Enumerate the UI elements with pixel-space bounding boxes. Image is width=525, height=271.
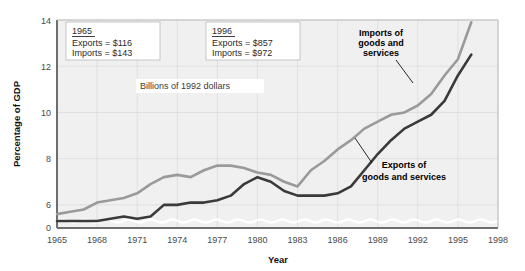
chart-svg: 068101214 196519681971197419771980198319… [0,0,525,271]
y-axis-break-squiggle [57,220,497,223]
chart-figure: 068101214 196519681971197419771980198319… [0,0,525,271]
x-axis-tick-label: 1986 [328,235,348,245]
series-label-imports-line2: goods and [358,38,404,48]
series-label-exports-line2: goods and services [362,172,446,182]
y-axis-tick-label: 14 [41,16,51,26]
x-axis-tick-label: 1998 [488,235,508,245]
x-axis-tick-label: 1971 [127,235,147,245]
series-label-exports-line1: Exports of [382,160,428,170]
x-axis-title: Year [268,254,288,265]
y-axis-tick-label: 6 [46,200,51,210]
x-axis-tick-label: 1995 [448,235,468,245]
x-axis-tick-label: 1977 [207,235,227,245]
units-note: Billions of 1992 dollars [136,79,264,93]
annotation-1996-imports: Imports = $972 [212,48,272,58]
y-axis-tick-label: 10 [41,108,51,118]
y-axis-tick-label: 8 [46,154,51,164]
x-axis-tick-label: 1989 [368,235,388,245]
x-axis-tick-label: 1980 [247,235,267,245]
x-axis-tick-label: 1983 [288,235,308,245]
annotation-box-1965: 1965 Exports = $116 Imports = $143 [66,22,160,60]
annotation-1965-year: 1965 [72,26,92,36]
annotation-1996-year: 1996 [212,26,232,36]
y-axis-tick-label: 0 [46,223,51,233]
series-label-imports-line3: services [363,48,399,58]
x-axis-tick-label: 1974 [167,235,187,245]
x-axis-tick-label: 1992 [408,235,428,245]
y-axis-tick-label: 12 [41,62,51,72]
annotation-1965-exports: Exports = $116 [72,38,132,48]
units-note-text: Billions of 1992 dollars [140,81,231,91]
annotation-1996-exports: Exports = $857 [212,38,273,48]
y-axis-title: Percentage of GDP [11,80,22,167]
annotation-1965-imports: Imports = $143 [72,48,132,58]
annotation-box-1996: 1996 Exports = $857 Imports = $972 [206,22,300,60]
series-label-imports-line1: Imports of [359,28,404,38]
x-axis-tick-label: 1965 [47,235,67,245]
x-axis-tick-label: 1968 [87,235,107,245]
